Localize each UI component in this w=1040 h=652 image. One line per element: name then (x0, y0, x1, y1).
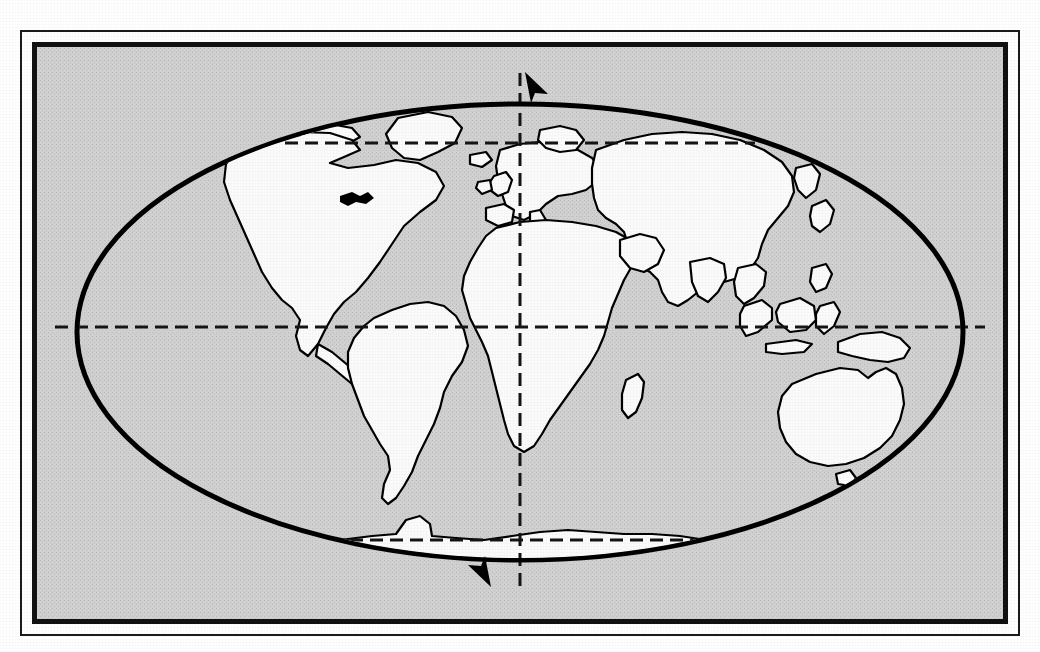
land-scandinavia (538, 126, 584, 152)
land-ireland (476, 180, 492, 194)
land-great-britain (490, 172, 512, 196)
world-map-figure (0, 0, 1040, 652)
land-iberia (486, 204, 514, 226)
map-canvas (0, 0, 1040, 652)
land-java (766, 340, 812, 354)
